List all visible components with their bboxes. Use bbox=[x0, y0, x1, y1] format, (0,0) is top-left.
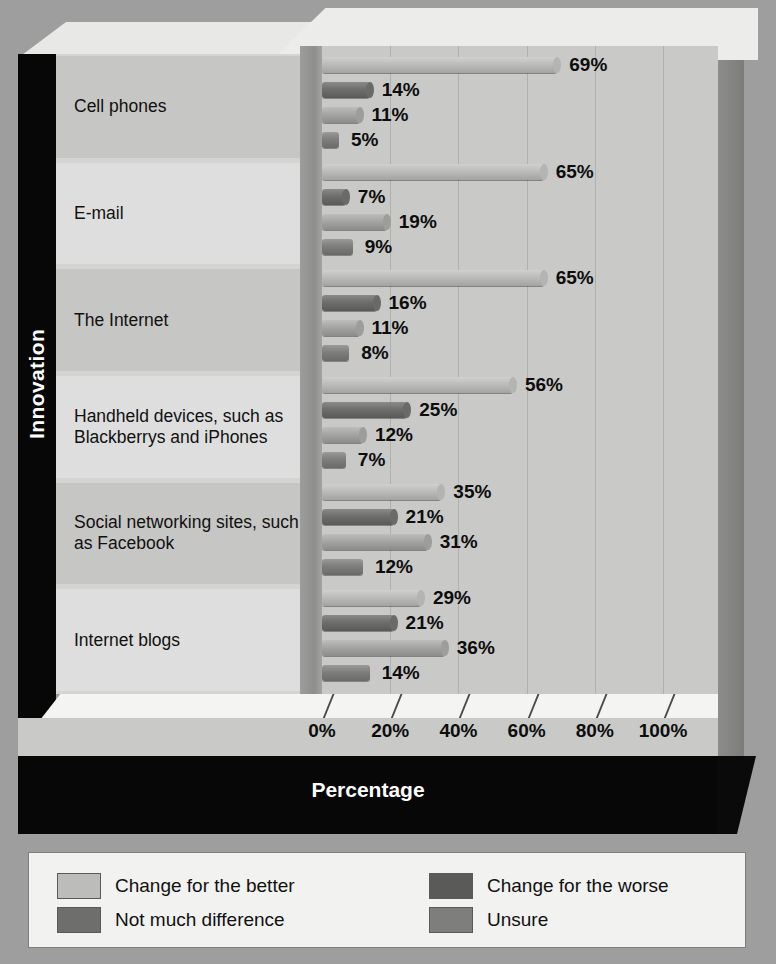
legend-label: Unsure bbox=[487, 909, 548, 931]
bar-3 bbox=[322, 665, 370, 681]
bar-cap bbox=[342, 189, 350, 205]
bar-value-label: 9% bbox=[365, 236, 392, 258]
bar-1 bbox=[322, 295, 377, 311]
bar-2 bbox=[322, 320, 360, 336]
bar-value-label: 14% bbox=[382, 79, 420, 101]
category-band: Cell phones bbox=[56, 56, 322, 158]
plot-area: 69%14%11%5%65%7%19%9%65%16%11%8%56%25%12… bbox=[322, 46, 718, 694]
bar-value-label: 25% bbox=[419, 399, 457, 421]
gridline bbox=[595, 46, 596, 694]
bar-cap bbox=[383, 214, 391, 230]
category-band: The Internet bbox=[56, 269, 322, 371]
gridline bbox=[527, 46, 528, 694]
bar-value-label: 11% bbox=[372, 104, 409, 126]
bar-cap bbox=[342, 452, 350, 468]
legend-item[interactable]: Unsure bbox=[429, 907, 548, 933]
bar-cap bbox=[366, 665, 374, 681]
bar-value-label: 12% bbox=[375, 424, 413, 446]
category-band: E-mail bbox=[56, 163, 322, 265]
legend-item[interactable]: Not much difference bbox=[57, 907, 285, 933]
bar-2 bbox=[322, 427, 363, 443]
legend-item[interactable]: Change for the better bbox=[57, 873, 295, 899]
bar-value-label: 29% bbox=[433, 587, 471, 609]
bar-2 bbox=[322, 534, 428, 550]
bar-value-label: 69% bbox=[569, 54, 607, 76]
bar-1 bbox=[322, 189, 346, 205]
category-band: Handheld devices, such as Blackberrys an… bbox=[56, 376, 322, 478]
y-axis-title: Innovation bbox=[18, 54, 56, 714]
bar-cap bbox=[359, 427, 367, 443]
bar-3 bbox=[322, 345, 349, 361]
bar-3 bbox=[322, 132, 339, 148]
category-label: Social networking sites, such as Faceboo… bbox=[74, 512, 316, 554]
x-tick-label: 100% bbox=[623, 720, 703, 742]
bar-0 bbox=[322, 57, 557, 73]
category-band: Internet blogs bbox=[56, 589, 322, 691]
bar-cap bbox=[403, 402, 411, 418]
bar-0 bbox=[322, 484, 441, 500]
x-axis-title: Percentage bbox=[18, 778, 718, 802]
legend-label: Not much difference bbox=[115, 909, 285, 931]
bar-cap bbox=[437, 484, 445, 500]
bar-value-label: 36% bbox=[457, 637, 495, 659]
bar-cap bbox=[424, 534, 432, 550]
category-label: Internet blogs bbox=[74, 630, 180, 651]
category-label: The Internet bbox=[74, 310, 168, 331]
bar-1 bbox=[322, 82, 370, 98]
bar-2 bbox=[322, 640, 445, 656]
bar-value-label: 7% bbox=[358, 449, 385, 471]
bar-cap bbox=[366, 82, 374, 98]
legend-swatch bbox=[429, 873, 473, 899]
bar-1 bbox=[322, 615, 394, 631]
bar-0 bbox=[322, 377, 513, 393]
bar-cap bbox=[509, 377, 517, 393]
bar-value-label: 19% bbox=[399, 211, 437, 233]
plot-side-wall bbox=[300, 46, 324, 706]
bar-1 bbox=[322, 402, 407, 418]
legend-label: Change for the worse bbox=[487, 875, 669, 897]
bar-0 bbox=[322, 270, 544, 286]
bar-0 bbox=[322, 164, 544, 180]
bar-cap bbox=[390, 615, 398, 631]
bar-cap bbox=[553, 57, 561, 73]
bar-3 bbox=[322, 452, 346, 468]
bar-value-label: 21% bbox=[406, 506, 444, 528]
category-label: Cell phones bbox=[74, 96, 166, 117]
bar-cap bbox=[335, 132, 343, 148]
bar-cap bbox=[373, 295, 381, 311]
plot-floor bbox=[40, 694, 718, 720]
left-panel-lid bbox=[18, 22, 318, 58]
chart-legend: Change for the betterChange for the wors… bbox=[28, 852, 746, 948]
bar-value-label: 14% bbox=[382, 662, 420, 684]
legend-swatch bbox=[57, 907, 101, 933]
bar-3 bbox=[322, 239, 353, 255]
bar-cap bbox=[345, 345, 353, 361]
bar-value-label: 16% bbox=[389, 292, 427, 314]
bar-cap bbox=[349, 239, 357, 255]
bar-2 bbox=[322, 214, 387, 230]
bar-value-label: 65% bbox=[556, 161, 594, 183]
bar-value-label: 7% bbox=[358, 186, 385, 208]
bar-2 bbox=[322, 107, 360, 123]
bar-value-label: 31% bbox=[440, 531, 478, 553]
bar-0 bbox=[322, 590, 421, 606]
bar-cap bbox=[540, 164, 548, 180]
category-label: Handheld devices, such as Blackberrys an… bbox=[74, 406, 316, 448]
bar-cap bbox=[359, 559, 367, 575]
bar-value-label: 35% bbox=[453, 481, 491, 503]
bar-cap bbox=[356, 320, 364, 336]
gridline bbox=[663, 46, 664, 694]
category-label: E-mail bbox=[74, 203, 124, 224]
category-label-column: Cell phonesE-mailThe InternetHandheld de… bbox=[56, 54, 322, 694]
bar-cap bbox=[390, 509, 398, 525]
legend-swatch bbox=[57, 873, 101, 899]
legend-item[interactable]: Change for the worse bbox=[429, 873, 669, 899]
bar-value-label: 11% bbox=[372, 317, 409, 339]
bar-cap bbox=[356, 107, 364, 123]
bar-1 bbox=[322, 509, 394, 525]
bar-value-label: 12% bbox=[375, 556, 413, 578]
bar-value-label: 65% bbox=[556, 267, 594, 289]
bar-cap bbox=[441, 640, 449, 656]
bar-value-label: 56% bbox=[525, 374, 563, 396]
chart-3d-block: Innovation Cell phonesE-mailThe Internet… bbox=[0, 0, 776, 840]
